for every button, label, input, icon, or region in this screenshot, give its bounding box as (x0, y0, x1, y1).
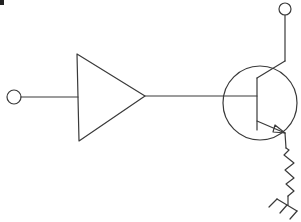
input-terminal (7, 90, 21, 104)
collector-terminal (279, 3, 291, 15)
amplifier-triangle-icon (77, 54, 145, 141)
transistor-emitter (257, 121, 285, 133)
ground-icon (269, 199, 297, 219)
npn-transistor (223, 61, 297, 140)
collector-terminal-circle (279, 3, 291, 15)
transistor-collector (257, 61, 285, 78)
amplifier (77, 54, 145, 141)
circuit-diagram (0, 0, 301, 222)
emitter-resistor-icon (284, 148, 294, 196)
emitter-wire (285, 133, 286, 148)
transistor-envelope (223, 66, 297, 140)
input-terminal-circle (7, 90, 21, 104)
